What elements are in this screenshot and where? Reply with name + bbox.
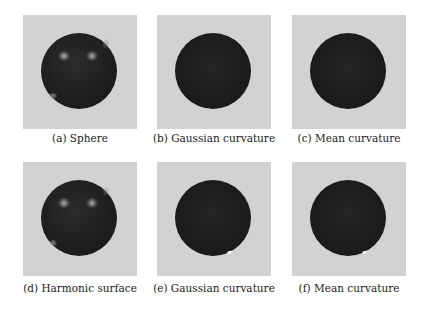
caption-f: (f) Mean curvature — [279, 282, 419, 294]
sphere-render — [175, 180, 251, 256]
specular-highlight — [58, 198, 70, 208]
specular-highlight — [103, 39, 109, 49]
panel-d-harmonic-surface — [23, 162, 137, 276]
panel-a-sphere — [23, 15, 137, 129]
panel-e-gaussian-curvature — [157, 162, 271, 276]
sphere-render — [310, 33, 386, 109]
caption-c: (c) Mean curvature — [279, 132, 419, 144]
caption-e: (e) Gaussian curvature — [144, 282, 284, 294]
sphere-render — [310, 180, 386, 256]
specular-highlight — [103, 186, 109, 196]
specular-highlight — [49, 240, 57, 246]
panel-b-gaussian-curvature — [157, 15, 271, 129]
sphere-render — [41, 180, 117, 256]
white-spot — [227, 250, 233, 255]
panel-c-mean-curvature — [292, 15, 406, 129]
panel-f-mean-curvature — [292, 162, 406, 276]
specular-highlight — [58, 51, 70, 61]
sphere-render — [41, 33, 117, 109]
specular-highlight — [86, 198, 98, 208]
specular-highlight — [49, 93, 57, 99]
caption-b: (b) Gaussian curvature — [144, 132, 284, 144]
white-spot — [362, 250, 368, 255]
sphere-render — [175, 33, 251, 109]
caption-d: (d) Harmonic surface — [10, 282, 150, 294]
caption-a: (a) Sphere — [10, 132, 150, 144]
specular-highlight — [86, 51, 98, 61]
